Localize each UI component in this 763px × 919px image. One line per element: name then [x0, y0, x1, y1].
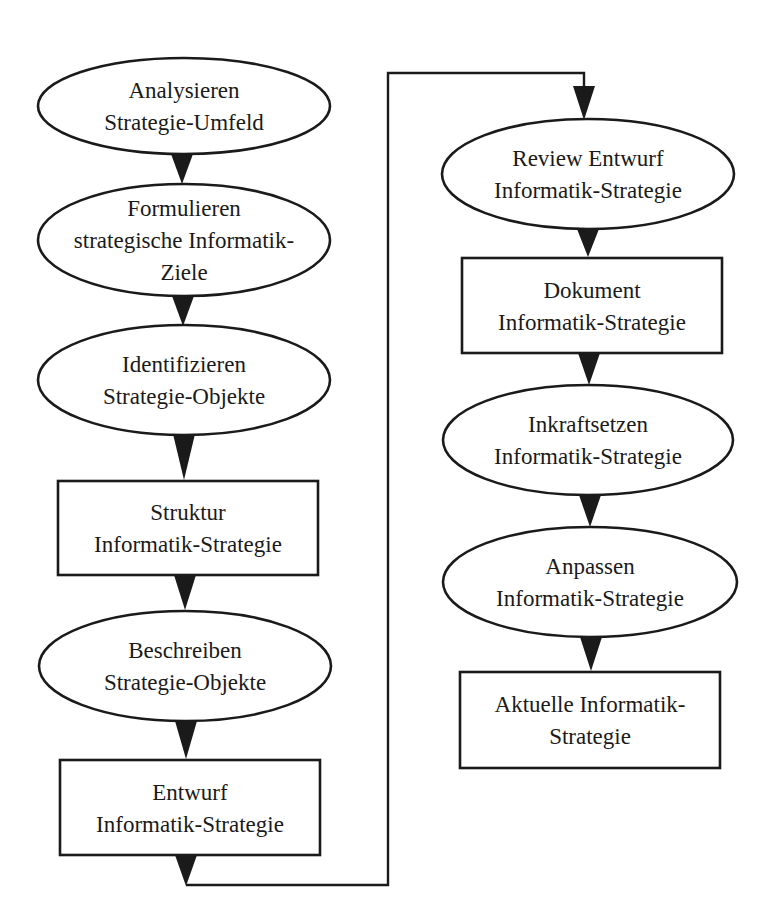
arrowhead-icon — [172, 296, 194, 326]
node-label: Strategie-Objekte — [103, 384, 265, 409]
rect-shape — [58, 481, 318, 575]
node-label: Anpassen — [545, 554, 635, 579]
node-label: Informatik-Strategie — [494, 178, 682, 203]
node-struktur-informatik-strategie: StrukturInformatik-Strategie — [58, 481, 318, 575]
node-label: Inkraftsetzen — [528, 412, 649, 437]
node-label: Formulieren — [127, 196, 241, 221]
arrowhead-icon — [171, 154, 193, 184]
node-beschreiben-strategie-objekte: BeschreibenStrategie-Objekte — [39, 611, 331, 721]
node-dokument-informatik-strategie: DokumentInformatik-Strategie — [462, 258, 722, 353]
node-entwurf-informatik-strategie: EntwurfInformatik-Strategie — [60, 760, 320, 855]
node-identifizieren-strategie-objekte: IdentifizierenStrategie-Objekte — [38, 325, 330, 435]
arrowhead-icon — [578, 353, 600, 385]
node-label: Strategie-Umfeld — [104, 110, 264, 135]
ellipse-shape — [39, 611, 331, 721]
ellipse-shape — [443, 385, 733, 495]
node-label: Ziele — [160, 260, 207, 285]
rect-shape — [60, 760, 320, 855]
node-aktuelle-informatik-strategie: Aktuelle Informatik-Strategie — [460, 672, 720, 768]
node-label: Informatik-Strategie — [494, 444, 682, 469]
node-inkraftsetzen-informatik-strategie: InkraftsetzenInformatik-Strategie — [443, 385, 733, 495]
ellipse-shape — [38, 58, 330, 154]
node-label: Struktur — [150, 500, 226, 525]
rect-shape — [460, 672, 720, 768]
node-label: Beschreiben — [128, 638, 242, 663]
node-anpassen-informatik-strategie: AnpassenInformatik-Strategie — [443, 527, 737, 637]
node-label: Strategie — [549, 724, 631, 749]
ellipse-shape — [443, 527, 737, 637]
node-formulieren-strategische-informatik-ziele: Formulierenstrategische Informatik-Ziele — [38, 184, 330, 296]
node-label: Strategie-Objekte — [104, 670, 266, 695]
node-label: strategische Informatik- — [74, 228, 294, 253]
node-analysieren-strategie-umfeld: AnalysierenStrategie-Umfeld — [38, 58, 330, 154]
arrowhead-icon — [580, 637, 602, 671]
node-label: Informatik-Strategie — [496, 586, 684, 611]
rect-shape — [462, 258, 722, 353]
node-label: Informatik-Strategie — [96, 812, 284, 837]
arrowhead-icon — [175, 721, 197, 759]
ellipse-shape — [442, 119, 734, 229]
node-label: Entwurf — [152, 780, 228, 805]
ellipse-shape — [38, 325, 330, 435]
arrowhead-icon — [577, 229, 599, 257]
arrowhead-icon — [173, 434, 195, 480]
node-label: Dokument — [543, 278, 641, 303]
arrowhead-icon — [175, 855, 197, 886]
arrowhead-icon — [579, 495, 601, 527]
node-label: Aktuelle Informatik- — [495, 692, 686, 717]
arrowhead-icon — [573, 86, 595, 120]
arrowhead-icon — [174, 575, 196, 610]
node-label: Informatik-Strategie — [498, 310, 686, 335]
node-review-entwurf-informatik-strategie: Review EntwurfInformatik-Strategie — [442, 119, 734, 229]
node-label: Analysieren — [128, 78, 240, 103]
flowchart-canvas: AnalysierenStrategie-UmfeldFormulierenst… — [0, 0, 763, 919]
node-label: Identifizieren — [122, 352, 246, 377]
node-label: Review Entwurf — [512, 146, 664, 171]
node-label: Informatik-Strategie — [94, 532, 282, 557]
